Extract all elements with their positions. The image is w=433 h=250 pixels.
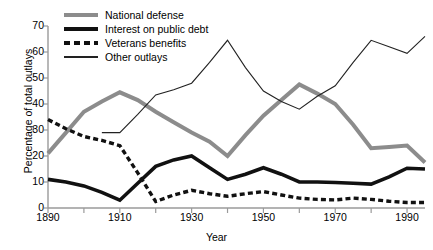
thick-black-line-icon [62, 22, 100, 36]
chart-container: 010203040506070 189019101930195019701990… [0, 0, 433, 250]
legend-item-national-defense: National defense [62, 8, 262, 22]
thick-gray-line-icon [62, 8, 100, 22]
x-tick-label: 1970 [315, 211, 355, 223]
x-tick-label: 1890 [28, 211, 68, 223]
x-tick-label: 1950 [243, 211, 283, 223]
dashed-black-line-icon [62, 36, 100, 50]
legend-item-other-outlays: Other outlays [62, 50, 262, 64]
series-line-interest-on-public-debt [48, 156, 425, 200]
legend-item-interest-on-public-debt: Interest on public debt [62, 22, 262, 36]
x-tick-label: 1990 [387, 211, 427, 223]
legend-label: National defense [100, 8, 184, 22]
legend-label: Other outlays [100, 50, 167, 64]
legend-item-veterans-benefits: Veterans benefits [62, 36, 262, 50]
chart-legend: National defense Interest on public debt… [62, 8, 262, 64]
x-tick-label: 1910 [100, 211, 140, 223]
legend-label: Interest on public debt [100, 22, 208, 36]
series-line-veterans-benefits [48, 120, 425, 203]
thin-black-line-icon [62, 50, 100, 64]
x-tick-label: 1930 [172, 211, 212, 223]
series-line-national-defense [48, 85, 425, 163]
x-axis-title: Year [0, 231, 433, 243]
y-axis-title: Percentage of total outlays [22, 21, 34, 201]
legend-label: Veterans benefits [100, 36, 186, 50]
